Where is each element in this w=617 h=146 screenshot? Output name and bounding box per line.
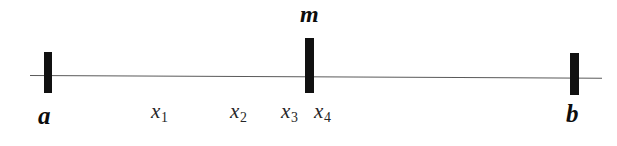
axis-label-m: m bbox=[300, 2, 319, 26]
sample-point-subscript-x1: 1 bbox=[161, 110, 168, 125]
tick-mark-m bbox=[305, 38, 314, 93]
sample-point-base-x2: x bbox=[230, 99, 239, 123]
tick-mark-b bbox=[570, 53, 579, 95]
number-line-figure: a m b x1 x2 x3 x4 bbox=[0, 0, 617, 146]
sample-point-label-x2: x2 bbox=[230, 101, 246, 122]
sample-point-subscript-x4: 4 bbox=[324, 110, 331, 125]
sample-point-label-x4: x4 bbox=[314, 101, 330, 122]
tick-mark-a bbox=[44, 52, 52, 93]
axis-label-b: b bbox=[566, 101, 579, 126]
sample-point-subscript-x3: 3 bbox=[291, 110, 298, 125]
number-line-axis bbox=[30, 75, 602, 79]
sample-point-label-x1: x1 bbox=[151, 101, 167, 122]
sample-point-base-x3: x bbox=[281, 99, 290, 123]
axis-label-a: a bbox=[38, 103, 51, 128]
sample-point-subscript-x2: 2 bbox=[240, 110, 247, 125]
sample-point-label-x3: x3 bbox=[281, 101, 297, 122]
sample-point-base-x4: x bbox=[314, 99, 323, 123]
sample-point-base-x1: x bbox=[151, 99, 160, 123]
